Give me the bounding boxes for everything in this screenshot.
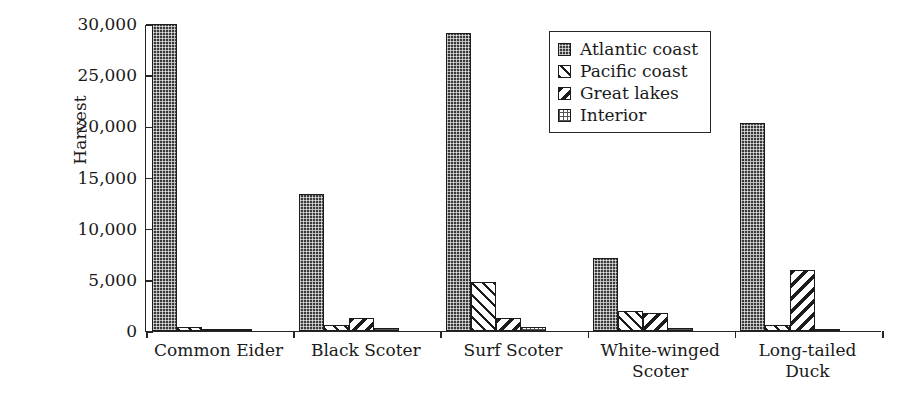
bar-great-lakes — [349, 318, 374, 331]
legend-item-interior: Interior — [558, 104, 698, 126]
bar-atlantic-coast — [152, 24, 177, 331]
bar-pacific-coast — [324, 325, 349, 331]
bar-atlantic-coast — [299, 194, 324, 331]
bar-interior — [815, 329, 840, 331]
bar-great-lakes — [790, 270, 815, 331]
bar-atlantic-coast — [740, 123, 765, 331]
bar-group — [146, 25, 293, 331]
bar-group — [293, 25, 440, 331]
bar-pacific-coast — [177, 327, 202, 331]
legend-swatch-pacific-coast — [558, 65, 571, 78]
y-tick-label: 0 — [126, 321, 146, 341]
bar-great-lakes — [202, 329, 227, 331]
y-tick-label: 15,000 — [78, 168, 146, 188]
bar-set — [152, 25, 252, 331]
legend-item-atlantic-coast: Atlantic coast — [558, 38, 698, 60]
plot-area: 05,00010,00015,00020,00025,00030,000 — [145, 25, 881, 332]
bar-group — [734, 25, 881, 331]
bar-interior — [521, 327, 546, 331]
y-tick-label: 20,000 — [78, 116, 146, 136]
bar-great-lakes — [643, 313, 668, 331]
legend: Atlantic coastPacific coastGreat lakesIn… — [549, 31, 711, 133]
legend-label: Great lakes — [580, 85, 679, 102]
bar-set — [446, 25, 546, 331]
x-tick-mark — [588, 331, 590, 338]
x-category-label: Long-tailed Duck — [734, 340, 881, 382]
x-category-label: Common Eider — [145, 340, 292, 382]
legend-swatch-great-lakes — [558, 87, 571, 100]
legend-item-great-lakes: Great lakes — [558, 82, 698, 104]
bar-interior — [668, 328, 693, 331]
x-category-label: Black Scoter — [292, 340, 439, 382]
legend-swatch-interior — [558, 109, 571, 122]
x-tick-mark — [735, 331, 737, 338]
x-category-label: Surf Scoter — [439, 340, 586, 382]
bar-set — [299, 25, 399, 331]
x-tick-mark — [440, 331, 442, 338]
x-tick-mark — [146, 331, 148, 338]
x-category-label: White-winged Scoter — [587, 340, 734, 382]
x-tick-mark — [882, 331, 884, 338]
x-tick-mark — [293, 331, 295, 338]
bar-set — [740, 25, 840, 331]
bar-atlantic-coast — [446, 33, 471, 331]
y-tick-label: 10,000 — [78, 219, 146, 239]
bar-chart: Harvest 05,00010,00015,00020,00025,00030… — [0, 0, 898, 412]
bar-pacific-coast — [471, 282, 496, 331]
legend-label: Atlantic coast — [580, 41, 698, 58]
bar-groups — [146, 25, 881, 331]
bar-pacific-coast — [765, 325, 790, 331]
bar-atlantic-coast — [593, 258, 618, 331]
y-tick-label: 30,000 — [78, 14, 146, 34]
bar-pacific-coast — [618, 311, 643, 331]
x-axis-labels: Common EiderBlack ScoterSurf ScoterWhite… — [145, 340, 881, 382]
legend-label: Pacific coast — [580, 63, 687, 80]
y-tick-label: 5,000 — [88, 270, 146, 290]
bar-interior — [227, 329, 252, 331]
bar-interior — [374, 328, 399, 331]
legend-item-pacific-coast: Pacific coast — [558, 60, 698, 82]
y-tick-label: 25,000 — [78, 65, 146, 85]
legend-swatch-atlantic-coast — [558, 43, 571, 56]
bar-great-lakes — [496, 318, 521, 331]
legend-label: Interior — [580, 107, 646, 124]
